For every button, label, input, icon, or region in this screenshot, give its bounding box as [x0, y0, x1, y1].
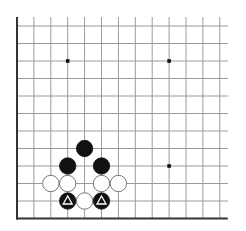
white-stone[interactable] [110, 175, 126, 191]
star-point-icon [167, 164, 171, 168]
white-stone[interactable] [76, 193, 92, 209]
white-stone[interactable] [59, 175, 75, 191]
star-point-icon [66, 59, 70, 63]
black-stone[interactable] [93, 158, 109, 174]
black-stone[interactable] [76, 140, 92, 156]
star-point-icon [167, 59, 171, 63]
black-stone[interactable] [59, 158, 75, 174]
white-stone[interactable] [93, 175, 109, 191]
white-stone[interactable] [43, 175, 59, 191]
go-board[interactable] [0, 0, 246, 231]
